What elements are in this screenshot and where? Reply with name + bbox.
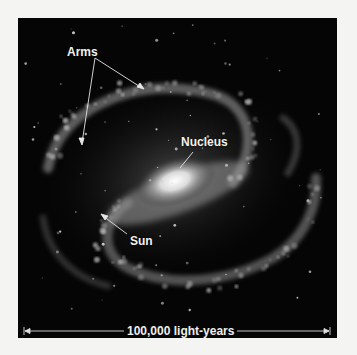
star [92, 278, 94, 280]
star [320, 169, 321, 170]
star [80, 173, 82, 175]
star-cluster [122, 256, 125, 259]
star [175, 148, 178, 151]
star-cluster [162, 284, 167, 289]
star-cluster [133, 87, 138, 92]
star-cluster [165, 81, 169, 85]
star [192, 24, 194, 26]
star-cluster [277, 256, 280, 259]
star-cluster [311, 193, 314, 196]
star [157, 167, 158, 168]
star-cluster [204, 90, 206, 92]
star-cluster [312, 221, 315, 224]
star [59, 230, 61, 232]
star-cluster [121, 259, 126, 264]
star-cluster [206, 288, 211, 293]
star [299, 185, 300, 186]
star [160, 180, 163, 183]
star [85, 133, 88, 136]
star-cluster [116, 88, 122, 94]
star [145, 83, 147, 85]
label-arms: Arms [67, 46, 98, 58]
star-cluster [215, 92, 221, 98]
star [168, 140, 169, 141]
star [224, 62, 226, 64]
star-cluster [117, 80, 122, 85]
star [37, 122, 39, 124]
star [225, 164, 228, 167]
star [279, 70, 281, 72]
star-cluster [172, 80, 177, 85]
star-cluster [253, 117, 258, 122]
star-cluster [212, 278, 217, 283]
star [224, 40, 226, 42]
star [155, 128, 157, 130]
star-cluster [314, 185, 320, 191]
star [161, 302, 164, 305]
star-cluster [307, 184, 312, 189]
star-cluster [235, 269, 238, 272]
star [149, 179, 151, 181]
star [159, 235, 161, 237]
star [101, 300, 102, 301]
star-cluster [307, 218, 309, 220]
galaxy-image: Arms Nucleus Sun 100,000 light-years [18, 18, 337, 338]
star-cluster [147, 82, 152, 87]
star [225, 274, 227, 276]
star-cluster [95, 246, 100, 251]
star [54, 147, 57, 150]
star-cluster [287, 255, 289, 257]
star [243, 206, 245, 208]
star-cluster [132, 92, 135, 95]
star [189, 309, 191, 311]
star [173, 224, 176, 227]
label-sun: Sun [130, 235, 153, 247]
star [24, 62, 27, 65]
star-cluster [68, 110, 71, 113]
star-cluster [247, 267, 251, 271]
star-cluster [201, 92, 204, 95]
star-cluster [248, 122, 251, 125]
star [296, 297, 298, 299]
star [229, 63, 231, 65]
star [172, 183, 173, 184]
star-cluster [57, 153, 63, 159]
star [128, 121, 129, 122]
star-cluster [121, 93, 125, 97]
star-cluster [138, 274, 144, 280]
star [248, 162, 250, 164]
star [122, 26, 123, 27]
scale-bar-left-arrow [25, 329, 30, 334]
star-cluster [63, 118, 69, 124]
star-cluster [100, 219, 103, 222]
star [170, 91, 172, 93]
star-cluster [269, 259, 271, 261]
star-cluster [111, 261, 113, 263]
star [161, 274, 163, 276]
star-cluster [251, 132, 256, 137]
star-cluster [104, 100, 106, 102]
star-cluster [64, 125, 70, 131]
star-cluster [117, 199, 120, 202]
scale-bar-right-arrow [324, 329, 329, 334]
star-cluster [291, 243, 297, 249]
star-cluster [162, 87, 164, 89]
star-cluster [245, 100, 249, 104]
star-cluster [237, 175, 243, 181]
star-cluster [112, 205, 115, 208]
star-cluster [307, 200, 311, 204]
label-nucleus: Nucleus [181, 136, 228, 148]
star [320, 197, 322, 199]
star-cluster [187, 281, 193, 287]
star-cluster [200, 85, 205, 90]
star [173, 33, 175, 35]
star-cluster [217, 286, 222, 291]
star [113, 285, 115, 287]
star-cluster [108, 216, 113, 221]
star-cluster [101, 229, 106, 234]
star-cluster [50, 154, 56, 160]
star [75, 211, 77, 213]
star-cluster [252, 141, 257, 146]
star-cluster [117, 205, 120, 208]
star [71, 28, 72, 29]
